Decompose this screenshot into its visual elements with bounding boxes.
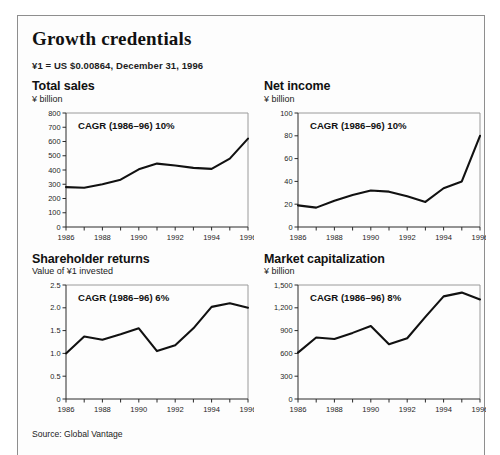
cagr-annotation: CAGR (1986–96) 6% (78, 292, 170, 303)
x-tick-label: 1994 (435, 232, 452, 241)
y-tick-label: 700 (48, 122, 60, 131)
series-line (66, 138, 248, 187)
x-tick-label: 1994 (435, 405, 452, 414)
y-tick-label: 900 (280, 326, 292, 335)
x-tick-label: 1994 (203, 232, 220, 241)
y-tick-label: 1.0 (50, 349, 60, 358)
y-tick-label: 300 (48, 179, 60, 188)
x-tick-label: 1992 (167, 405, 184, 414)
x-tick-label: 1994 (203, 405, 220, 414)
chart-panel-total-sales: Total sales ¥ billion 010020030040050060… (32, 80, 254, 247)
x-tick-label: 1992 (399, 232, 416, 241)
x-tick-label: 1996 (472, 405, 486, 414)
x-tick-label: 1986 (290, 405, 307, 414)
y-tick-label: 600 (280, 349, 292, 358)
exhibit-card: Growth credentials ¥1 = US $0.00864, Dec… (17, 15, 485, 455)
x-tick-label: 1996 (240, 232, 254, 241)
chart-axis-caption: ¥ billion (32, 94, 254, 105)
y-tick-label: 400 (48, 165, 60, 174)
chart-title: Total sales (32, 80, 254, 94)
chart-panel-net-income: Net income ¥ billion 0204060801001986198… (264, 80, 486, 247)
y-tick-label: 80 (284, 131, 292, 140)
series-line (298, 135, 480, 207)
y-tick-label: 60 (284, 154, 292, 163)
x-tick-label: 1988 (94, 232, 111, 241)
y-tick-label: 100 (280, 108, 292, 117)
series-line (66, 303, 248, 353)
y-tick-label: 500 (48, 151, 60, 160)
line-chart-shareholder-returns: 00.51.01.52.02.5198619881990199219941996… (32, 279, 254, 419)
y-tick-label: 200 (48, 194, 60, 203)
cagr-annotation: CAGR (1986–96) 10% (78, 120, 175, 131)
x-tick-label: 1988 (94, 405, 111, 414)
y-tick-label: 0.5 (50, 372, 60, 381)
chart-axis-caption: Value of ¥1 invested (32, 266, 254, 277)
plot-area: 03006009001,2001,50019861988199019921994… (264, 279, 486, 419)
y-tick-label: 2.0 (50, 303, 60, 312)
y-tick-label: 0 (288, 395, 292, 404)
y-tick-label: 0 (56, 222, 60, 231)
x-tick-label: 1990 (362, 232, 379, 241)
line-chart-total-sales: 0100200300400500600700800198619881990199… (32, 107, 254, 247)
y-tick-label: 600 (48, 137, 60, 146)
page-title: Growth credentials (32, 28, 472, 50)
y-tick-label: 0 (56, 395, 60, 404)
chart-panel-market-capitalization: Market capitalization ¥ billion 03006009… (264, 253, 486, 420)
y-tick-label: 300 (280, 372, 292, 381)
x-tick-label: 1996 (240, 405, 254, 414)
y-tick-label: 2.5 (50, 281, 60, 290)
x-tick-label: 1992 (399, 405, 416, 414)
plot-area: 00.51.01.52.02.5198619881990199219941996… (32, 279, 254, 419)
y-tick-label: 0 (288, 222, 292, 231)
x-tick-label: 1988 (326, 232, 343, 241)
x-tick-label: 1990 (130, 405, 147, 414)
chart-title: Net income (264, 80, 486, 94)
y-tick-label: 800 (48, 108, 60, 117)
x-tick-label: 1986 (58, 232, 75, 241)
line-chart-net-income: 020406080100198619881990199219941996CAGR… (264, 107, 486, 247)
charts-grid: Total sales ¥ billion 010020030040050060… (32, 80, 472, 419)
chart-title: Market capitalization (264, 253, 486, 267)
x-tick-label: 1986 (58, 405, 75, 414)
x-tick-label: 1996 (472, 232, 486, 241)
x-tick-label: 1988 (326, 405, 343, 414)
y-tick-label: 1,200 (274, 303, 293, 312)
plot-area: 020406080100198619881990199219941996CAGR… (264, 107, 486, 247)
cagr-annotation: CAGR (1986–96) 8% (310, 292, 402, 303)
chart-panel-shareholder-returns: Shareholder returns Value of ¥1 invested… (32, 253, 254, 420)
line-chart-market-capitalization: 03006009001,2001,50019861988199019921994… (264, 279, 486, 419)
cagr-annotation: CAGR (1986–96) 10% (310, 120, 407, 131)
x-tick-label: 1990 (130, 232, 147, 241)
y-tick-label: 1.5 (50, 326, 60, 335)
plot-area: 0100200300400500600700800198619881990199… (32, 107, 254, 247)
x-tick-label: 1986 (290, 232, 307, 241)
exchange-rate-note: ¥1 = US $0.00864, December 31, 1996 (32, 60, 472, 71)
y-tick-label: 40 (284, 177, 292, 186)
source-note: Source: Global Vantage (32, 429, 123, 439)
y-tick-label: 20 (284, 199, 292, 208)
x-tick-label: 1992 (167, 232, 184, 241)
y-tick-label: 1,500 (274, 281, 293, 290)
x-tick-label: 1990 (362, 405, 379, 414)
chart-axis-caption: ¥ billion (264, 266, 486, 277)
chart-axis-caption: ¥ billion (264, 94, 486, 105)
y-tick-label: 100 (48, 208, 60, 217)
exhibit-inner: Growth credentials ¥1 = US $0.00864, Dec… (18, 16, 484, 455)
chart-title: Shareholder returns (32, 253, 254, 267)
